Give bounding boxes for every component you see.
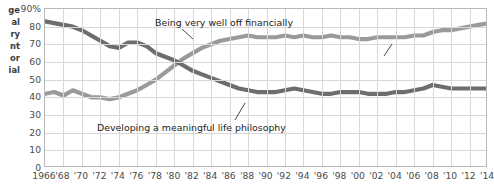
gridline-vertical: [470, 9, 471, 166]
x-tick-label: '88: [240, 170, 254, 181]
y-tick-label: 40: [0, 91, 41, 102]
x-tick-label: '92: [277, 170, 291, 181]
x-tick-label: '98: [332, 170, 346, 181]
gridline-vertical: [322, 9, 323, 166]
gridline-vertical: [433, 9, 434, 166]
gridline-horizontal: [45, 97, 486, 98]
gridline-vertical: [63, 9, 64, 166]
gridline-vertical: [193, 9, 194, 166]
x-tick-label: '04: [388, 170, 402, 181]
x-tick-label: '80: [166, 170, 180, 181]
annotation-philosophy: Developing a meaningful life philosophy: [97, 122, 286, 133]
gridline-vertical: [248, 9, 249, 166]
y-tick-label: 20: [0, 126, 41, 137]
x-tick-label: '12: [461, 170, 475, 181]
x-tick-label: '84: [203, 170, 217, 181]
gridline-vertical: [359, 9, 360, 166]
gridline-vertical: [396, 9, 397, 166]
x-tick-label: '82: [185, 170, 199, 181]
x-tick-label: '02: [369, 170, 383, 181]
x-tick-label: '68: [55, 170, 69, 181]
x-tick-label: '86: [221, 170, 235, 181]
gridline-vertical: [119, 9, 120, 166]
gridline-vertical: [377, 9, 378, 166]
y-tick-label: 60: [0, 56, 41, 67]
x-tick-label: '10: [443, 170, 457, 181]
x-tick-label: 1966: [32, 170, 55, 181]
y-tick-label: 50: [0, 73, 41, 84]
x-tick-label: '70: [74, 170, 88, 181]
gridline-vertical: [267, 9, 268, 166]
gridline-vertical: [211, 9, 212, 166]
x-tick-label: '08: [425, 170, 439, 181]
annotation-financial: Being very well off financially: [155, 17, 293, 28]
x-tick-label: '76: [129, 170, 143, 181]
gridline-vertical: [100, 9, 101, 166]
chart-figure: ge al ry nt or ial 90%80706050403020100 …: [0, 0, 494, 191]
chart-lines: [45, 9, 487, 167]
x-tick-label: '74: [111, 170, 125, 181]
gridline-horizontal: [45, 115, 486, 116]
gridline-vertical: [174, 9, 175, 166]
gridline-horizontal: [45, 62, 486, 63]
y-tick-label: 80: [0, 20, 41, 31]
gridline-horizontal: [45, 133, 486, 134]
x-tick-label: '90: [258, 170, 272, 181]
y-tick-label: 90%: [0, 3, 41, 14]
x-tick-label: '06: [406, 170, 420, 181]
gridline-vertical: [340, 9, 341, 166]
x-tick-label: '00: [351, 170, 365, 181]
x-tick-label: '78: [148, 170, 162, 181]
gridline-vertical: [451, 9, 452, 166]
gridline-vertical: [303, 9, 304, 166]
x-tick-label: '94: [295, 170, 309, 181]
gridline-vertical: [137, 9, 138, 166]
gridline-vertical: [156, 9, 157, 166]
x-tick-label: '96: [314, 170, 328, 181]
plot-area: [44, 8, 487, 167]
data-series-line: [45, 21, 487, 93]
gridline-vertical: [414, 9, 415, 166]
gridline-horizontal: [45, 44, 486, 45]
y-tick-label: 10: [0, 144, 41, 155]
y-tick-label: 70: [0, 38, 41, 49]
x-tick-label: '72: [92, 170, 106, 181]
y-axis-tick-labels: 90%80706050403020100: [0, 0, 41, 191]
gridline-vertical: [82, 9, 83, 166]
x-tick-label: '14: [480, 170, 494, 181]
gridline-horizontal: [45, 150, 486, 151]
gridline-vertical: [285, 9, 286, 166]
y-tick-label: 30: [0, 109, 41, 120]
gridline-horizontal: [45, 80, 486, 81]
gridline-vertical: [230, 9, 231, 166]
x-axis-tick-labels: 1966'68'70'72'74'76'78'80'82'84'86'88'90…: [0, 170, 494, 188]
